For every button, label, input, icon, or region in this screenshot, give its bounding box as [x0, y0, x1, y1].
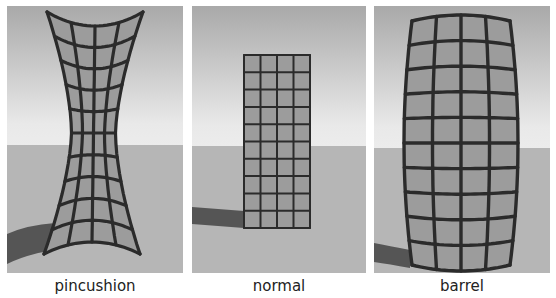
- distorted-grid: [404, 15, 518, 271]
- pincushion-illustration: [7, 6, 183, 273]
- grid-line-horizontal: [404, 167, 517, 168]
- normal-illustration: [192, 6, 366, 273]
- barrel-illustration: [374, 6, 550, 273]
- label-normal: normal: [192, 276, 366, 296]
- panel-barrel: [374, 6, 550, 273]
- label-pincushion: pincushion: [7, 276, 183, 296]
- grid-line-horizontal: [404, 117, 517, 118]
- panel-pincushion: [7, 6, 183, 273]
- grid: [244, 55, 310, 228]
- label-barrel: barrel: [374, 276, 550, 296]
- panel-normal: [192, 6, 366, 273]
